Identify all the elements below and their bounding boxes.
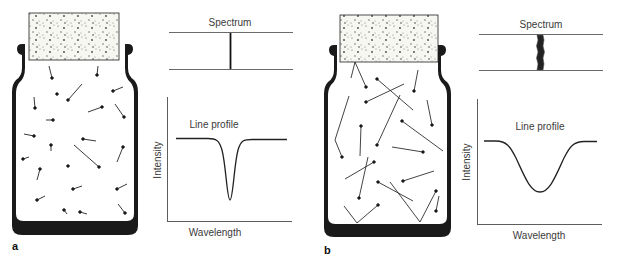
- jar-glass-icon: [12, 44, 138, 235]
- x-axis-label-a: Wavelength: [189, 227, 241, 238]
- spectrum-b: Spectrum: [479, 19, 603, 71]
- profile-title-a: Line profile: [190, 119, 239, 130]
- y-axis-label-b: Intensity: [461, 143, 472, 180]
- cork-stopper-icon: [29, 13, 119, 60]
- profile-title-b: Line profile: [516, 121, 565, 132]
- panel-label-b: b: [324, 244, 331, 256]
- panel-label-a: a: [12, 240, 19, 252]
- cork-stopper-icon: [340, 15, 438, 62]
- line-profile-b: Line profile Wavelength Intensity: [461, 99, 602, 241]
- profile-curve-broad: [484, 141, 597, 192]
- spectrum-a: Spectrum: [169, 17, 293, 70]
- spectrum-title-a: Spectrum: [209, 17, 252, 28]
- line-profile-a: Line profile Wavelength Intensity: [152, 97, 292, 238]
- profile-curve-narrow: [176, 139, 287, 201]
- spectrum-title-b: Spectrum: [520, 19, 563, 30]
- y-axis-label-a: Intensity: [152, 141, 163, 178]
- gas-atoms-a: [22, 66, 127, 214]
- jar-glass-icon: [324, 45, 451, 237]
- panel-b: b Spectrum Line profile Wavelength Inten…: [324, 15, 603, 256]
- jar-a: [12, 13, 138, 235]
- spectral-line-broadened: [537, 35, 545, 70]
- doppler-broadening-figure: a Spectrum Line profile Wavelength Inten…: [0, 0, 617, 266]
- jar-b: [324, 15, 451, 237]
- panel-a: a Spectrum Line profile Wavelength Inten…: [12, 13, 293, 252]
- gas-atoms-b: [335, 62, 443, 223]
- x-axis-label-b: Wavelength: [513, 230, 565, 241]
